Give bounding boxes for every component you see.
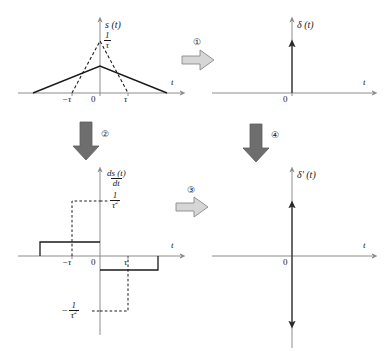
panel-delta-t-y-axis-label: δ (t)	[297, 20, 314, 30]
figure-canvas	[0, 0, 385, 357]
right-arrow-icon	[176, 197, 208, 217]
panel-delta-prime-t-origin-label: 0	[283, 258, 288, 267]
panel-s-t-x-axis-label: t	[171, 78, 174, 87]
step-arrow-2-label: ②	[101, 130, 109, 139]
panel-delta-prime-t-y-axis-label: δ' (t)	[297, 170, 316, 180]
panel-s-t-peak-value-label: 1 τ	[103, 31, 112, 50]
step-arrow-4	[243, 124, 269, 162]
panel-ds-dt-tick-label-tau: τ	[124, 258, 127, 267]
step-arrow-3-label: ③	[187, 186, 195, 195]
panel-ds-dt-x-axis-label: t	[171, 241, 174, 250]
panel-ds-dt-y-axis-label: ds (t) dt	[105, 169, 128, 188]
down-arrow-icon	[73, 122, 99, 160]
panel-ds-dt-upper-value-label: 1 τ2	[110, 191, 120, 210]
panel-s-t-origin-label: 0	[91, 95, 96, 104]
panel-delta-t-origin-label: 0	[283, 95, 288, 104]
panel-delta-t	[212, 22, 372, 96]
step-arrow-1-label: ①	[193, 38, 201, 47]
panel-s-t-tick-label-minus-tau: −τ	[62, 95, 71, 104]
panel-ds-dt-origin-label: 0	[91, 258, 96, 267]
step-arrow-3	[176, 197, 208, 217]
solid-rect-negative	[100, 256, 158, 270]
panel-ds-dt-tick-label-minus-tau: −τ	[62, 258, 71, 267]
down-arrow-icon	[243, 124, 269, 162]
step-arrow-1	[182, 50, 214, 70]
panel-delta-prime-t-x-axis-label: t	[363, 241, 366, 250]
right-arrow-icon	[182, 50, 214, 70]
panel-delta-prime-t	[212, 172, 372, 348]
panel-ds-dt	[18, 172, 180, 335]
step-arrow-2	[73, 122, 99, 160]
panel-delta-t-x-axis-label: t	[363, 78, 366, 87]
dashed-rect-positive	[72, 201, 100, 256]
panel-s-t-y-axis-label: s (t)	[105, 20, 121, 30]
step-arrow-4-label: ④	[271, 131, 279, 140]
panel-s-t-tick-label-tau: τ	[124, 95, 127, 104]
solid-rect-positive	[40, 242, 100, 256]
panel-ds-dt-lower-value-label: − 1 τ2	[62, 301, 79, 320]
panel-s-t	[18, 22, 180, 96]
